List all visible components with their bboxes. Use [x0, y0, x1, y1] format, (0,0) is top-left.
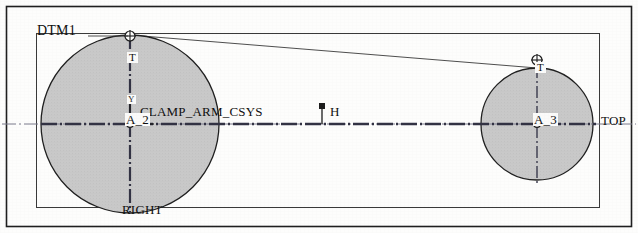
label-csys-name: CLAMP_ARM_CSYS — [140, 105, 263, 118]
label-axis-a2: A_2 — [125, 113, 150, 126]
label-top-plane: TOP — [601, 114, 626, 127]
label-datum-t-right: T — [535, 62, 546, 73]
label-csys-axis-y: Y — [127, 95, 136, 104]
datum-h-marker-icon[interactable] — [319, 103, 325, 109]
label-axis-a3: A_3 — [533, 113, 558, 126]
cad-drawing-canvas: DTM1 RIGHT TOP CLAMP_ARM_CSYS A_2 A_3 H … — [0, 0, 638, 233]
label-dtm1: DTM1 — [37, 24, 76, 38]
label-datum-h: H — [330, 105, 340, 118]
label-datum-t-left: T — [127, 52, 138, 63]
label-right-plane: RIGHT — [122, 203, 163, 216]
